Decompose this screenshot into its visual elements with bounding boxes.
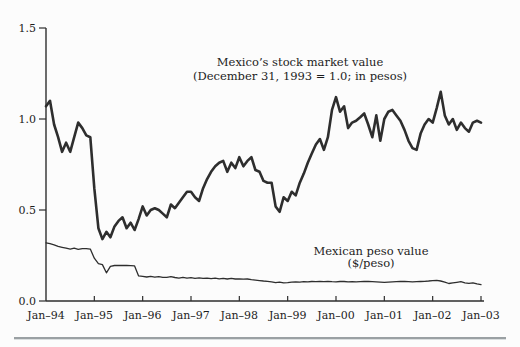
y-tick-label: 0.5 [19, 204, 37, 217]
x-tick-label: Jan–01 [365, 309, 404, 322]
x-tick-label: Jan–94 [26, 309, 65, 322]
stock-market-annotation: Mexico’s stock market value [217, 55, 384, 69]
stock-market-series-line [46, 92, 481, 239]
x-tick-label: Jan–02 [413, 309, 452, 322]
x-tick-label: Jan–99 [268, 309, 307, 322]
bottom-rule [14, 337, 506, 339]
x-tick-label: Jan–95 [75, 309, 114, 322]
x-tick-label: Jan–96 [123, 309, 162, 322]
line-chart: 0.00.51.01.5Jan–94Jan–95Jan–96Jan–97Jan–… [0, 0, 520, 347]
y-tick-label: 1.5 [19, 22, 37, 35]
chart-figure: 0.00.51.01.5Jan–94Jan–95Jan–96Jan–97Jan–… [0, 0, 520, 347]
x-tick-label: Jan–98 [220, 309, 259, 322]
bottom-rule-shadow [14, 339, 506, 340]
x-tick-label: Jan–00 [316, 309, 355, 322]
x-tick-label: Jan–03 [461, 309, 500, 322]
stock-market-annotation: (December 31, 1993 = 1.0; in pesos) [193, 69, 407, 83]
peso-annotation: ($/peso) [347, 256, 394, 270]
y-tick-label: 1.0 [19, 113, 37, 126]
y-tick-label: 0.0 [19, 295, 37, 308]
x-tick-label: Jan–97 [171, 309, 210, 322]
